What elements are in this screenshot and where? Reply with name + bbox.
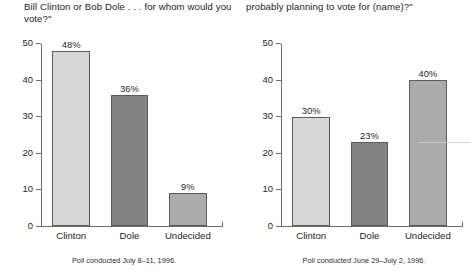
bar-right-clinton: 30%: [292, 117, 329, 226]
plot-area-right: 01020304050 30%Clinton23%Dole40%Undecide…: [281, 44, 457, 227]
category-label-left-undecided: Undecided: [165, 230, 211, 241]
bar-slot-right-clinton: 30%Clinton: [282, 44, 340, 226]
poll-charts-figure: Bill Clinton or Bob Dole . . . for whom …: [0, 0, 471, 279]
bar-value-left-clinton: 48%: [62, 39, 81, 50]
y-tick-label-left-50: 50: [23, 37, 33, 48]
bar-left-undecided: 9%: [169, 193, 206, 226]
y-tick-right-0: 0: [276, 226, 281, 227]
y-tick-label-right-0: 0: [268, 220, 273, 231]
y-tick-right-40: 40: [276, 80, 281, 81]
category-label-right-clinton: Clinton: [296, 230, 326, 241]
bar-left-clinton: 48%: [52, 51, 89, 226]
y-tick-left-10: 10: [36, 189, 41, 190]
x-axis-line-right: [281, 226, 463, 227]
category-label-right-undecided: Undecided: [405, 230, 451, 241]
bar-group-left: 48%Clinton36%Dole9%Undecided: [42, 44, 217, 226]
y-tick-label-left-20: 20: [23, 147, 33, 158]
bar-value-right-undecided: 40%: [418, 68, 437, 79]
bar-slot-left-undecided: 9%Undecided: [159, 44, 217, 226]
bar-slot-right-dole: 23%Dole: [340, 44, 398, 226]
y-tick-right-30: 30: [276, 116, 281, 117]
y-tick-label-right-40: 40: [263, 74, 273, 85]
y-tick-label-left-10: 10: [23, 183, 33, 194]
chart-panel-right: probably planning to vote for (name)?" 0…: [236, 0, 471, 279]
y-tick-right-20: 20: [276, 153, 281, 154]
chart-title-right: probably planning to vote for (name)?": [246, 1, 470, 13]
y-tick-left-20: 20: [36, 153, 41, 154]
category-label-left-dole: Dole: [120, 230, 140, 241]
bar-slot-right-undecided: 40%Undecided: [399, 44, 457, 226]
y-tick-left-50: 50: [36, 43, 41, 44]
y-tick-label-right-10: 10: [263, 183, 273, 194]
y-tick-label-left-30: 30: [23, 110, 33, 121]
bar-value-left-dole: 36%: [120, 83, 139, 94]
x-axis-endcap-left: [222, 222, 223, 227]
chart-caption-left: Poll conducted July 8–11, 1996.: [0, 256, 242, 265]
x-axis-line-left: [41, 226, 223, 227]
bar-value-left-undecided: 9%: [181, 181, 195, 192]
y-tick-left-40: 40: [36, 80, 41, 81]
chart-title-left: Bill Clinton or Bob Dole . . . for whom …: [24, 1, 232, 24]
bar-group-right: 30%Clinton23%Dole40%Undecided: [282, 44, 457, 226]
chart-caption-right: Poll conducted June 29–July 2, 1996.: [236, 256, 471, 265]
y-tick-right-10: 10: [276, 189, 281, 190]
scan-artifact-line: [418, 142, 471, 143]
y-tick-right-50: 50: [276, 43, 281, 44]
y-tick-left-0: 0: [36, 226, 41, 227]
bar-value-right-clinton: 30%: [302, 105, 321, 116]
bar-right-undecided: 40%: [409, 80, 446, 226]
y-tick-label-right-50: 50: [263, 37, 273, 48]
bar-value-right-dole: 23%: [360, 130, 379, 141]
y-tick-label-left-40: 40: [23, 74, 33, 85]
y-tick-label-left-0: 0: [28, 220, 33, 231]
category-label-left-clinton: Clinton: [56, 230, 86, 241]
bar-left-dole: 36%: [111, 95, 148, 226]
bar-slot-left-clinton: 48%Clinton: [42, 44, 100, 226]
y-tick-label-right-30: 30: [263, 110, 273, 121]
bar-right-dole: 23%: [351, 142, 388, 226]
y-tick-label-right-20: 20: [263, 147, 273, 158]
bar-slot-left-dole: 36%Dole: [100, 44, 158, 226]
plot-area-left: 01020304050 48%Clinton36%Dole9%Undecided: [41, 44, 217, 227]
y-tick-left-30: 30: [36, 116, 41, 117]
chart-panel-left: Bill Clinton or Bob Dole . . . for whom …: [0, 0, 236, 279]
x-axis-endcap-right: [462, 222, 463, 227]
category-label-right-dole: Dole: [360, 230, 380, 241]
